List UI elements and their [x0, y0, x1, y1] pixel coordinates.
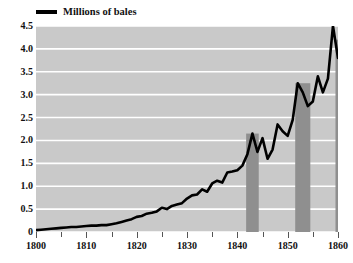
x-major-tick [288, 232, 289, 238]
x-major-tick [237, 232, 238, 238]
x-tick-label: 1800 [14, 241, 58, 251]
x-tick-label: 1810 [64, 241, 108, 251]
x-tick-label: 1860 [316, 241, 353, 251]
x-major-tick [36, 232, 37, 238]
x-tick-label: 1850 [266, 241, 310, 251]
x-major-tick [338, 232, 339, 238]
x-minor-tick [61, 232, 62, 237]
x-tick-label: 1820 [115, 241, 159, 251]
x-major-tick [137, 232, 138, 238]
x-minor-tick [263, 232, 264, 237]
x-minor-tick [162, 232, 163, 237]
x-minor-tick [313, 232, 314, 237]
x-major-tick [86, 232, 87, 238]
cotton-production-chart: Millions of bales 00.51.01.52.02.53.03.5… [0, 0, 353, 263]
x-axis: 1800181018201830184018501860 [0, 0, 353, 263]
x-minor-tick [212, 232, 213, 237]
x-tick-label: 1830 [165, 241, 209, 251]
x-minor-tick [112, 232, 113, 237]
x-tick-label: 1840 [215, 241, 259, 251]
x-major-tick [187, 232, 188, 238]
